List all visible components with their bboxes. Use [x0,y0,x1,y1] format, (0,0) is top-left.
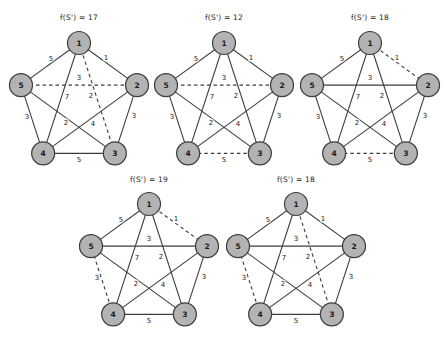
edge-weight-4-5: 3 [170,113,174,121]
edge-weight-2-4: 4 [382,120,387,128]
edge-weight-1-4: 7 [135,254,139,262]
figure-svg: 1353527432123451353527432123451353527432… [0,0,444,341]
node-label-4: 4 [258,310,263,319]
node-label-1: 1 [146,200,151,209]
node-label-1: 1 [76,39,81,48]
edge-weight-4-5: 3 [25,113,29,121]
edge-weight-5-1: 5 [340,55,344,63]
edge-weight-1-2: 1 [395,54,399,62]
edge-weight-2-5: 3 [294,235,298,243]
node-label-5: 5 [88,242,93,251]
graph-1: 135352743212345 [9,32,148,165]
edge-weight-1-2: 1 [174,215,178,223]
edge-weight-5-1: 5 [119,216,123,224]
edge-weight-5-1: 5 [49,55,53,63]
node-label-3: 3 [329,310,334,319]
node-label-1: 1 [367,39,372,48]
edge-weight-1-2: 1 [104,54,108,62]
edge-weight-2-3: 3 [132,112,136,120]
node-label-3: 3 [182,310,187,319]
edge-weight-1-3: 2 [380,92,384,100]
edge-weight-2-4: 4 [308,281,313,289]
edge-weight-3-4: 5 [147,317,151,325]
edge-weight-2-4: 4 [91,120,96,128]
edge-weight-2-5: 3 [147,235,151,243]
edge-weight-2-5: 3 [77,74,81,82]
node-label-5: 5 [235,242,240,251]
node-label-3: 3 [112,149,117,158]
edge-weight-4-5: 3 [316,113,320,121]
edge-weight-2-3: 3 [349,273,353,281]
edge-weight-3-5: 2 [134,280,138,288]
edge-weight-1-3: 2 [89,92,93,100]
edge-weight-3-4: 5 [77,156,81,164]
edge-weight-2-5: 3 [368,74,372,82]
edge-weight-3-4: 5 [294,317,298,325]
node-label-5: 5 [309,81,314,90]
graph-3: 135352743212345 [300,32,439,165]
node-label-3: 3 [257,149,262,158]
edge-1-3 [79,43,115,153]
edge-weight-4-5: 3 [242,274,246,282]
edge-weight-2-3: 3 [423,112,427,120]
node-label-3: 3 [403,149,408,158]
edge-weight-2-5: 3 [222,74,226,82]
node-label-4: 4 [111,310,116,319]
edge-weight-3-5: 2 [281,280,285,288]
node-label-4: 4 [332,149,337,158]
graph-5: 135352743212345 [226,193,365,326]
edge-weight-2-4: 4 [161,281,166,289]
edge-weight-2-4: 4 [236,120,241,128]
edge-weight-3-5: 2 [355,119,359,127]
edge-weight-1-4: 7 [210,93,214,101]
node-label-4: 4 [41,149,46,158]
edge-weight-1-2: 1 [321,215,325,223]
edge-weight-2-3: 3 [202,273,206,281]
edge-weight-1-3: 2 [306,253,310,261]
edge-weight-3-4: 5 [368,156,372,164]
edge-weight-1-4: 7 [356,93,360,101]
edge-weight-1-3: 2 [159,253,163,261]
edge-1-3 [224,43,260,153]
edge-weight-5-1: 5 [194,55,198,63]
edge-weight-2-3: 3 [277,112,281,120]
node-label-5: 5 [18,81,23,90]
node-label-2: 2 [204,242,209,251]
edge-weight-1-4: 7 [65,93,69,101]
edge-weight-1-4: 7 [282,254,286,262]
node-label-2: 2 [351,242,356,251]
graph-2: 135352743212345 [154,32,293,165]
node-label-1: 1 [221,39,226,48]
edge-weight-1-3: 2 [234,92,238,100]
edge-1-3 [149,204,185,314]
node-label-2: 2 [425,81,430,90]
figure: f(S') = 17 f(S') = 12 f(S') = 18 f(S') =… [0,0,444,341]
edge-weight-5-1: 5 [266,216,270,224]
graph-4: 135352743212345 [79,193,218,326]
node-label-2: 2 [134,81,139,90]
node-label-5: 5 [163,81,168,90]
edge-weight-3-5: 2 [64,119,68,127]
node-label-1: 1 [293,200,298,209]
node-label-4: 4 [186,149,191,158]
edge-weight-3-5: 2 [209,119,213,127]
edge-weight-1-2: 1 [249,54,253,62]
edge-1-3 [296,204,332,314]
edge-1-3 [370,43,406,153]
edge-weight-4-5: 3 [95,274,99,282]
node-label-2: 2 [279,81,284,90]
edge-weight-3-4: 5 [222,156,226,164]
